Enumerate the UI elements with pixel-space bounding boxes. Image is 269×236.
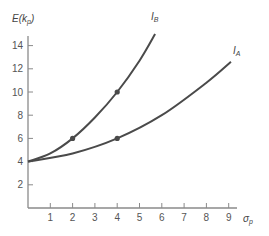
x-tick-label: 3 <box>92 212 98 223</box>
y-tick-label: 8 <box>17 110 23 121</box>
axes <box>28 36 237 208</box>
y-tick-label: 12 <box>12 63 24 74</box>
y-tick-label: 14 <box>12 40 24 51</box>
curve-label-ia: IA <box>233 45 241 57</box>
x-tick-label: 1 <box>48 212 54 223</box>
data-point <box>115 89 120 94</box>
curves <box>28 34 231 162</box>
curve-label-ib: IB <box>151 11 159 23</box>
curve-ib <box>28 34 155 162</box>
indifference-curve-chart: 2468101214 123456789 E(kp) σp IB IA <box>0 0 269 236</box>
y-tick-label: 4 <box>17 156 23 167</box>
x-tick-label: 4 <box>114 212 120 223</box>
x-axis-label: σp <box>243 213 253 226</box>
data-point <box>115 136 120 141</box>
y-ticks: 2468101214 <box>12 40 33 190</box>
x-tick-label: 7 <box>181 212 187 223</box>
x-tick-label: 9 <box>226 212 232 223</box>
y-tick-label: 10 <box>12 87 24 98</box>
x-ticks: 123456789 <box>48 203 232 223</box>
x-tick-label: 2 <box>70 212 76 223</box>
x-tick-label: 5 <box>137 212 143 223</box>
y-axis-label: E(kp) <box>12 13 34 26</box>
data-point <box>70 136 75 141</box>
y-tick-label: 6 <box>17 133 23 144</box>
x-tick-label: 8 <box>204 212 210 223</box>
x-tick-label: 6 <box>159 212 165 223</box>
y-tick-label: 2 <box>17 179 23 190</box>
